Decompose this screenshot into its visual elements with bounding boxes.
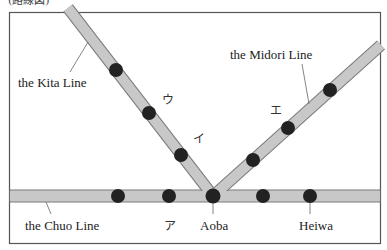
chuo-line-label: the Chuo Line — [25, 218, 100, 233]
station-heiwa — [303, 189, 317, 203]
heiwa-label: Heiwa — [299, 218, 333, 233]
kita-line-label: the Kita Line — [18, 75, 87, 90]
station-label-u: ウ — [162, 93, 174, 107]
station-kita-i — [174, 148, 188, 162]
midori-line — [213, 45, 381, 196]
midori-line-label: the Midori Line — [230, 47, 313, 62]
kita-line — [68, 8, 213, 196]
map-frame — [10, 13, 381, 244]
chuo-leader — [46, 202, 51, 214]
kita-leader — [70, 42, 88, 72]
station-label-i: イ — [193, 132, 205, 146]
station-chuo-1 — [111, 189, 125, 203]
station-midori-1 — [246, 153, 260, 167]
station-aoba — [206, 189, 221, 204]
station-kita-1 — [109, 63, 123, 77]
station-chuo-4 — [256, 189, 270, 203]
aoba-label: Aoba — [200, 218, 228, 233]
station-midori-3 — [323, 83, 337, 97]
station-kita-u — [142, 106, 156, 120]
station-midori-e — [281, 121, 295, 135]
station-label-e: エ — [270, 104, 282, 118]
station-chuo-a — [162, 189, 176, 203]
railway-map: the Kita Line the Midori Line the Chuo L… — [0, 0, 387, 250]
station-label-a: ア — [164, 219, 176, 233]
midori-leader — [302, 64, 309, 104]
